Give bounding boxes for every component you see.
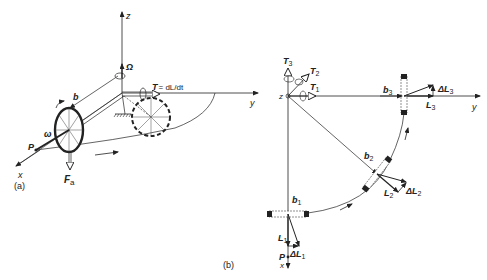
y-axis-label: y: [249, 98, 255, 108]
spin-arrow: [56, 101, 64, 108]
caption-b: (b): [223, 260, 234, 270]
wheel-3: [401, 74, 407, 115]
b3-label: b3: [383, 85, 393, 96]
b2-vector: [288, 96, 377, 174]
torque-rotation-icon: [140, 88, 146, 100]
dl2-vector: [398, 183, 406, 192]
t3-label: T3: [283, 56, 293, 67]
point-p-b: [287, 256, 290, 259]
b-label: b: [73, 92, 79, 102]
p-label-b: P: [279, 252, 286, 262]
y-axis-label-b: y: [471, 102, 477, 112]
motion-arrow: [95, 152, 118, 155]
l3-label: L3: [426, 100, 436, 111]
fa-label: Fa: [64, 174, 75, 187]
dl3-label: ΔL3: [437, 84, 454, 95]
x-axis-label: x: [17, 170, 23, 180]
l1-label: L1: [278, 233, 288, 244]
omega-big-label: Ω: [125, 62, 133, 72]
dl1-label: ΔL1: [289, 249, 306, 260]
t2-label: T2: [310, 66, 320, 77]
z-axis-label-b: z: [278, 92, 283, 101]
rotation-icon: [115, 73, 125, 79]
x-axis-arrow: [16, 150, 40, 166]
l2-label: L2: [384, 188, 394, 199]
dl2-label: ΔL2: [405, 186, 422, 197]
gyroscope-diagram: z y x b Ω T= dL/dt: [0, 0, 487, 280]
panel-a: z y x b Ω T= dL/dt: [14, 11, 258, 191]
t1-label: T1: [310, 82, 320, 93]
b1-label: b1: [292, 195, 302, 206]
p-label: P: [28, 142, 35, 152]
point-p: [34, 148, 37, 151]
omega-label: ω: [44, 129, 52, 139]
panel-b: y x z T3 T2 T1 b3 L3 ΔL3: [223, 56, 480, 270]
z-axis-label: z: [125, 11, 131, 21]
torque-label: T= dL/dt: [152, 82, 184, 92]
b2-label: b2: [364, 151, 374, 162]
caption-a: (a): [14, 181, 25, 191]
x-axis-label-b: x: [279, 261, 285, 270]
dashed-wheel: [132, 98, 170, 136]
